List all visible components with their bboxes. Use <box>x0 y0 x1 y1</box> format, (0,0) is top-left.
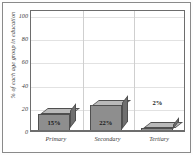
x-axis-category-labels: PrimarySecondaryTertiary <box>30 134 185 148</box>
bars-layer: 15%22%2% <box>31 11 184 131</box>
y-axis-tick-label: 40 <box>12 82 28 88</box>
y-axis-tick-label: 20 <box>12 106 28 112</box>
y-axis-tick-label: 0 <box>12 129 28 135</box>
y-axis-tick-label: 80 <box>12 36 28 42</box>
bar-value-label: 15% <box>38 120 70 127</box>
bar-primary[interactable]: 15% <box>38 96 70 131</box>
y-axis-tick-label: 60 <box>12 59 28 65</box>
x-axis-label-tertiary: Tertiary <box>133 136 185 142</box>
bar-value-label: 2% <box>141 100 173 119</box>
axis-baseline <box>31 130 184 131</box>
x-axis-label-secondary: Secondary <box>82 136 134 142</box>
y-axis-tick-labels: 020406080100 <box>12 10 28 132</box>
bar-value-label: 22% <box>90 120 122 127</box>
plot-area: 15%22%2% <box>30 10 185 132</box>
bar-side-face <box>122 96 128 129</box>
x-axis-label-primary: Primary <box>30 136 82 142</box>
bar-secondary[interactable]: 22% <box>90 88 122 131</box>
y-axis-tick-label: 100 <box>12 13 28 19</box>
bar-tertiary[interactable]: 2% <box>141 110 173 131</box>
chart-container: % of each age group in education 0204060… <box>0 0 193 155</box>
